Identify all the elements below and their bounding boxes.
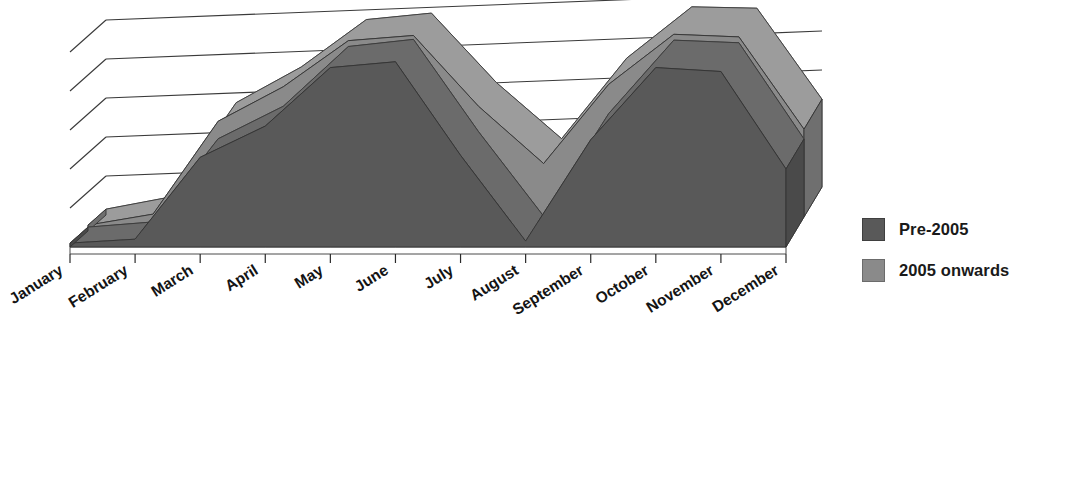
x-axis-label: February — [65, 261, 131, 311]
floor-front-rim — [70, 247, 786, 254]
x-axis-ticks — [70, 254, 786, 263]
gridline-left-wall — [70, 98, 106, 130]
chart-root: JanuaryFebruaryMarchAprilMayJuneJulyAugu… — [0, 0, 1075, 478]
gridline-left-wall — [70, 176, 106, 208]
x-axis-label: September — [509, 261, 586, 318]
chart-plot-area: JanuaryFebruaryMarchAprilMayJuneJulyAugu… — [0, 0, 840, 478]
x-axis-label: August — [467, 261, 521, 304]
legend-item-2005-onwards: 2005 onwards — [862, 259, 1062, 282]
x-axis-label: June — [351, 261, 391, 295]
legend-label-pre-2005: Pre-2005 — [899, 220, 969, 239]
legend-swatch-2005-onwards — [862, 259, 885, 282]
x-axis-labels: JanuaryFebruaryMarchAprilMayJuneJulyAugu… — [6, 261, 781, 318]
x-axis-label: July — [421, 261, 457, 292]
gridline-left-wall — [70, 20, 106, 52]
legend-label-2005-onwards: 2005 onwards — [899, 261, 1009, 280]
legend-item-pre-2005: Pre-2005 — [862, 218, 1062, 241]
x-axis-label: November — [643, 261, 716, 316]
gridline-left-wall — [70, 59, 106, 91]
area-chart-3d-svg: JanuaryFebruaryMarchAprilMayJuneJulyAugu… — [0, 0, 840, 478]
x-axis-label: October — [592, 261, 651, 307]
chart-legend: Pre-2005 2005 onwards — [862, 218, 1062, 300]
legend-swatch-pre-2005 — [862, 218, 885, 241]
gridline-left-wall — [70, 137, 106, 169]
x-axis-label: January — [6, 261, 66, 307]
x-axis-label: March — [148, 261, 196, 300]
x-axis-label: April — [222, 261, 261, 294]
x-axis-label: December — [709, 261, 782, 315]
x-axis-label: May — [291, 261, 326, 292]
